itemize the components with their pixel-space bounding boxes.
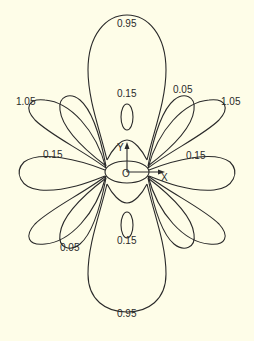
y-axis-arrow-icon [125,142,130,149]
x-axis-label: X [161,172,168,183]
label-left-horizontal: 0.15 [43,149,63,160]
lower-left-wide-lobe [29,176,106,244]
label-top-inner: 0.15 [117,88,137,99]
label-upper-right-outer: 1.05 [221,96,241,107]
top-inner-ellipse-015 [121,104,133,130]
label-lower-left-mid: 0.05 [60,242,80,253]
upper-left-wide-lobe-105 [29,100,106,168]
label-upper-left-outer: 1.05 [16,96,36,107]
y-axis-label: Y [117,142,124,153]
origin-label: O [122,168,130,179]
label-bottom-lobe: 0.95 [117,308,137,319]
label-upper-right-mid: 0.05 [173,84,193,95]
label-bottom-inner: 0.15 [117,235,137,246]
lower-right-wide-lobe [148,176,225,244]
label-top-lobe: 0.95 [117,18,137,29]
label-right-horizontal: 0.15 [186,150,206,161]
lobe-diagram: O Y X 0.95 0.95 0.15 0.15 1.05 1.05 0.05… [0,0,254,341]
